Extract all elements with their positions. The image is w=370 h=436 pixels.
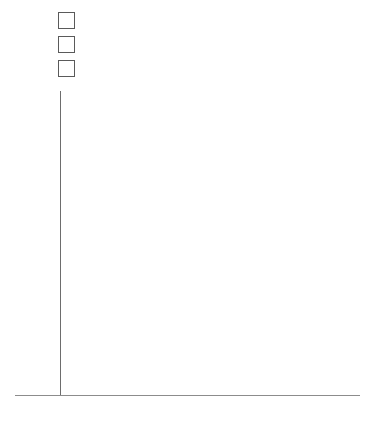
- bar-chart-plot: [0, 0, 370, 436]
- x-axis-line: [15, 395, 360, 396]
- y-axis-line: [60, 91, 61, 396]
